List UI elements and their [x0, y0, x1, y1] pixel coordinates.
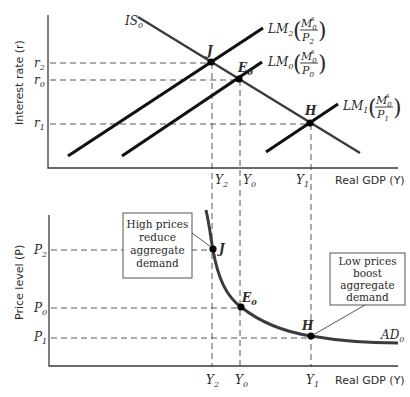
ad-y-axis-title: Price level (P)	[13, 245, 26, 320]
svg-text:): )	[393, 95, 402, 120]
lm2-curve	[68, 28, 263, 156]
svg-text:demand: demand	[346, 291, 389, 303]
lm1-curve	[266, 104, 338, 152]
p0-tick: P0	[33, 301, 47, 317]
svg-text:LM0: LM0	[267, 55, 293, 71]
point-h-label: H	[304, 104, 317, 118]
p1-tick: P1	[33, 330, 47, 346]
y0-tick-top: Y0	[243, 173, 256, 189]
callout-high-prices: High prices reduce aggregate demand	[123, 213, 211, 278]
svg-text:boost: boost	[353, 267, 383, 279]
point-e0-islm	[235, 75, 242, 82]
is-curve-label: IS0	[124, 14, 143, 30]
point-h-ad	[307, 332, 314, 339]
r0-tick: r0	[34, 73, 45, 89]
r2-tick: r2	[34, 56, 45, 72]
y1-tick-top: Y1	[296, 173, 309, 189]
ad-x-axis-title: Real GDP (Y)	[335, 374, 405, 387]
islm-y-axis-title: Interest rate (r)	[13, 40, 26, 125]
point-j-islm	[207, 58, 214, 65]
svg-text:demand: demand	[136, 257, 179, 269]
svg-text:s: s	[311, 15, 315, 23]
ad-curve-label: AD0	[380, 328, 404, 344]
svg-text:LM1: LM1	[342, 99, 368, 115]
svg-text:High prices: High prices	[127, 218, 189, 230]
point-j-ad-label: J	[217, 242, 226, 256]
point-h-islm	[306, 119, 313, 126]
svg-text:P2: P2	[301, 31, 314, 46]
svg-text:LM2: LM2	[267, 22, 293, 38]
is-lm-ad-diagram: J E0 H IS0 LM2 ( M0 s P2 ) LM0 ( M0 s P0…	[0, 0, 410, 397]
svg-text:aggregate: aggregate	[130, 244, 184, 256]
point-h-ad-label: H	[301, 319, 314, 333]
lm0-label: LM0 ( M0 s P0 )	[267, 48, 327, 79]
y2-tick-top: Y2	[215, 173, 228, 189]
lm2-label: LM2 ( M0 s P2 )	[267, 15, 327, 46]
islm-x-axis-title: Real GDP (Y)	[335, 174, 405, 187]
svg-text:aggregate: aggregate	[340, 279, 394, 291]
svg-text:s: s	[311, 48, 315, 56]
svg-text:P1: P1	[376, 108, 389, 123]
svg-text:s: s	[386, 92, 390, 100]
svg-text:): )	[318, 18, 327, 43]
point-e0-label: E0	[237, 61, 253, 77]
r1-tick: r1	[34, 116, 45, 132]
svg-text:P0: P0	[301, 64, 314, 79]
point-e0-ad-label: E0	[241, 291, 257, 307]
p2-tick: P2	[33, 243, 47, 259]
callout-low-prices: Low prices boost aggregate demand	[313, 253, 405, 335]
point-j-label: J	[205, 44, 214, 58]
lm1-label: LM1 ( M0 s P1 )	[342, 92, 402, 123]
svg-text:reduce: reduce	[139, 231, 176, 243]
svg-text:): )	[318, 51, 327, 76]
svg-text:Low prices: Low prices	[338, 255, 396, 267]
ad-panel: J E0 H AD0 High prices reduce aggregate …	[13, 210, 405, 389]
